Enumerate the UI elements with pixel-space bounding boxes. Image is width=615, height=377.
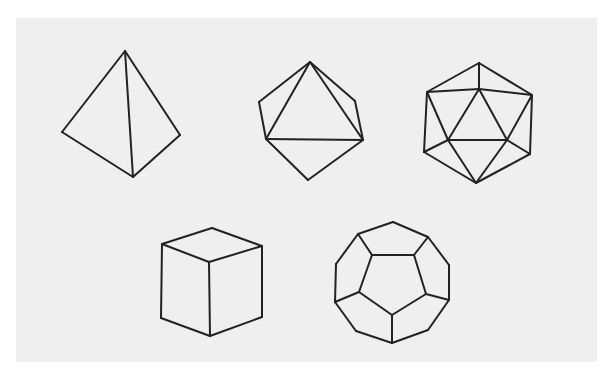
- tetrahedron-edge: [62, 132, 133, 177]
- cube-edge: [209, 262, 210, 336]
- cube-edge: [210, 317, 262, 336]
- dodecahedron-edge: [335, 264, 336, 302]
- octahedron-edge: [266, 62, 310, 139]
- icosahedron-edge: [507, 140, 530, 154]
- octahedron-edge: [308, 140, 363, 180]
- cube-edge: [162, 228, 212, 244]
- icosahedron-edge: [448, 140, 476, 183]
- dodecahedron-edge: [335, 302, 356, 331]
- dodecahedron-edge: [428, 300, 449, 330]
- dodecahedron-edge: [335, 292, 359, 302]
- dodecahedron-edge: [356, 331, 392, 343]
- icosahedron-edge: [427, 89, 479, 92]
- tetrahedron-edge: [125, 51, 133, 177]
- tetrahedron-icon: [62, 51, 180, 177]
- cube-edge: [161, 244, 162, 318]
- cube-edge: [209, 246, 262, 262]
- tetrahedron-edge: [62, 51, 125, 132]
- octahedron-edge: [266, 139, 308, 180]
- tetrahedron-edge: [133, 135, 180, 177]
- octahedron-edge: [266, 139, 363, 140]
- cube-icon: [161, 228, 262, 336]
- dodecahedron-edge: [392, 330, 428, 343]
- octahedron-edge: [259, 62, 310, 102]
- icosahedron-edge: [427, 92, 448, 140]
- icosahedron-edge: [476, 140, 507, 183]
- dodecahedron-edge: [358, 222, 393, 234]
- cube-edge: [212, 228, 262, 246]
- dodecahedron-edge: [426, 294, 449, 300]
- dodecahedron-edge: [414, 237, 428, 255]
- platonic-solids-figure: [0, 0, 615, 377]
- dodecahedron-edge: [414, 255, 426, 294]
- dodecahedron-edge: [359, 255, 372, 292]
- dodecahedron-edge: [428, 237, 449, 265]
- icosahedron-edge: [427, 63, 479, 92]
- tetrahedron-edge: [125, 51, 180, 135]
- octahedron-icon: [259, 62, 363, 180]
- cube-edge: [161, 318, 210, 336]
- dodecahedron-edge: [336, 234, 358, 264]
- icosahedron-edge: [530, 95, 532, 154]
- cube-edge: [162, 244, 209, 262]
- dodecahedron-edge: [393, 222, 428, 237]
- dodecahedron-edge: [358, 234, 372, 255]
- icosahedron-edge: [448, 89, 479, 140]
- icosahedron-edge: [476, 154, 530, 183]
- dodecahedron-icon: [335, 222, 449, 343]
- icosahedron-icon: [424, 63, 532, 183]
- octahedron-edge: [259, 102, 266, 139]
- icosahedron-edge: [507, 95, 532, 140]
- icosahedron-edge: [424, 152, 476, 183]
- dodecahedron-edge: [359, 292, 392, 315]
- icosahedron-edge: [424, 92, 427, 152]
- icosahedron-edge: [424, 140, 448, 152]
- icosahedron-edge: [479, 89, 507, 140]
- dodecahedron-edge: [392, 294, 426, 315]
